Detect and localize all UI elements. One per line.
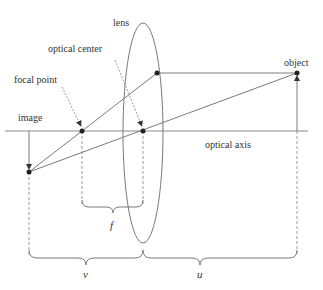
focal-point [80,129,85,134]
image-point [27,170,32,175]
v-label: v [83,268,88,280]
u-label: u [197,268,203,280]
object-label: object [284,57,309,68]
brace-f [82,200,143,213]
image-label: image [18,112,43,123]
lens-intersection-point [155,71,160,76]
center-pointer [115,60,141,124]
brace-u [143,250,297,265]
refracted-ray [29,73,157,172]
focal-point-label: focal point [14,74,57,85]
lens-label: lens [113,17,129,28]
optical-center-label: optical center [48,43,103,54]
optical-center-point [141,129,146,134]
brace-v [29,250,143,265]
lens-diagram: lens optical center focal point image ob… [0,0,323,290]
object-point [295,71,300,76]
focal-pointer [62,87,80,124]
f-label: f [110,219,115,231]
optical-axis-label: optical axis [205,139,251,150]
